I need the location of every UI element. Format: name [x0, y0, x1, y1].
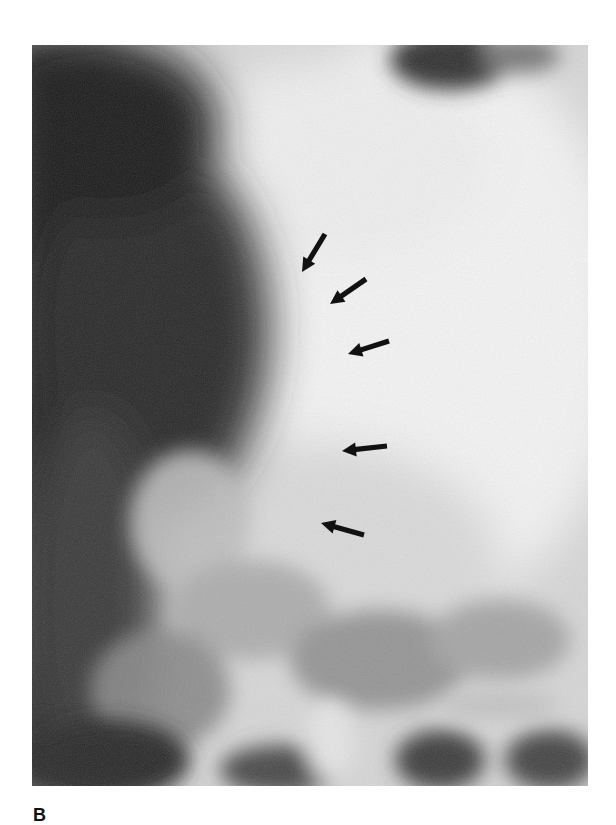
radiograph-svg: [32, 45, 588, 786]
radiograph-image: [32, 45, 588, 786]
panel-label: B: [33, 806, 46, 824]
